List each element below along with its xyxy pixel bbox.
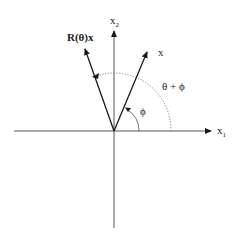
vector-rotated [85, 49, 114, 131]
theta-plus-phi-label: θ + ϕ [162, 80, 185, 92]
rotation-diagram: x2 x1 R(θ)x x θ + ϕ ϕ [0, 0, 240, 239]
vector-x [114, 52, 147, 131]
phi-label: ϕ [140, 105, 146, 117]
vector-x-label: x [158, 46, 164, 58]
rotated-vector-label: R(θ)x [67, 31, 94, 44]
phi-arc [127, 110, 139, 132]
x2-axis-label: x2 [110, 14, 120, 29]
x1-axis-label: x1 [217, 124, 227, 139]
theta-plus-phi-arc [93, 73, 171, 131]
